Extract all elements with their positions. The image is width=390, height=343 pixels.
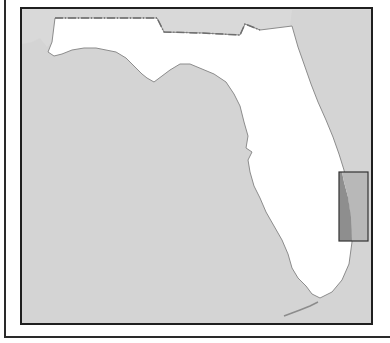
map-frame xyxy=(20,7,373,325)
florida-map xyxy=(22,9,373,325)
